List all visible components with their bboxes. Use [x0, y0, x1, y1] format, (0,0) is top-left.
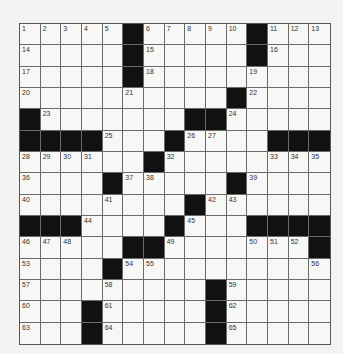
grid-cell[interactable] [227, 131, 248, 152]
grid-cell[interactable]: 36 [20, 173, 41, 194]
grid-cell[interactable]: 38 [144, 173, 165, 194]
grid-cell[interactable] [185, 323, 206, 344]
grid-cell[interactable] [289, 45, 310, 66]
grid-cell[interactable] [227, 259, 248, 280]
grid-cell[interactable] [103, 216, 124, 237]
grid-cell[interactable] [144, 323, 165, 344]
grid-cell[interactable]: 23 [41, 109, 62, 130]
grid-cell[interactable] [165, 195, 186, 216]
grid-cell[interactable] [268, 173, 289, 194]
grid-cell[interactable] [123, 280, 144, 301]
grid-cell[interactable]: 50 [247, 237, 268, 258]
grid-cell[interactable] [82, 67, 103, 88]
grid-cell[interactable]: 24 [227, 109, 248, 130]
grid-cell[interactable]: 53 [20, 259, 41, 280]
grid-cell[interactable]: 61 [103, 301, 124, 322]
grid-cell[interactable] [268, 323, 289, 344]
grid-cell[interactable] [227, 45, 248, 66]
grid-cell[interactable] [309, 195, 330, 216]
grid-cell[interactable]: 16 [268, 45, 289, 66]
grid-cell[interactable] [165, 173, 186, 194]
grid-cell[interactable] [82, 45, 103, 66]
grid-cell[interactable]: 47 [41, 237, 62, 258]
grid-cell[interactable]: 35 [309, 152, 330, 173]
grid-cell[interactable] [206, 67, 227, 88]
grid-cell[interactable] [82, 280, 103, 301]
grid-cell[interactable] [82, 88, 103, 109]
grid-cell[interactable] [206, 152, 227, 173]
grid-cell[interactable] [185, 301, 206, 322]
grid-cell[interactable] [247, 131, 268, 152]
grid-cell[interactable] [82, 109, 103, 130]
grid-cell[interactable] [289, 259, 310, 280]
grid-cell[interactable] [103, 152, 124, 173]
grid-cell[interactable]: 44 [82, 216, 103, 237]
grid-cell[interactable]: 7 [165, 24, 186, 45]
grid-cell[interactable] [61, 67, 82, 88]
grid-cell[interactable]: 41 [103, 195, 124, 216]
grid-cell[interactable] [206, 237, 227, 258]
grid-cell[interactable]: 57 [20, 280, 41, 301]
grid-cell[interactable] [61, 109, 82, 130]
grid-cell[interactable] [206, 173, 227, 194]
grid-cell[interactable] [123, 301, 144, 322]
grid-cell[interactable]: 28 [20, 152, 41, 173]
grid-cell[interactable]: 15 [144, 45, 165, 66]
grid-cell[interactable]: 55 [144, 259, 165, 280]
grid-cell[interactable]: 9 [206, 24, 227, 45]
grid-cell[interactable] [268, 88, 289, 109]
grid-cell[interactable] [309, 323, 330, 344]
grid-cell[interactable]: 52 [289, 237, 310, 258]
grid-cell[interactable] [289, 67, 310, 88]
grid-cell[interactable] [144, 109, 165, 130]
grid-cell[interactable] [123, 131, 144, 152]
grid-cell[interactable] [144, 280, 165, 301]
grid-cell[interactable] [185, 88, 206, 109]
grid-cell[interactable]: 26 [185, 131, 206, 152]
grid-cell[interactable] [289, 323, 310, 344]
grid-cell[interactable]: 11 [268, 24, 289, 45]
grid-cell[interactable]: 27 [206, 131, 227, 152]
grid-cell[interactable]: 25 [103, 131, 124, 152]
grid-cell[interactable] [289, 195, 310, 216]
grid-cell[interactable] [185, 173, 206, 194]
grid-cell[interactable] [123, 195, 144, 216]
grid-cell[interactable]: 17 [20, 67, 41, 88]
grid-cell[interactable]: 1 [20, 24, 41, 45]
grid-cell[interactable]: 22 [247, 88, 268, 109]
grid-cell[interactable]: 37 [123, 173, 144, 194]
grid-cell[interactable] [227, 216, 248, 237]
grid-cell[interactable] [227, 152, 248, 173]
grid-cell[interactable]: 40 [20, 195, 41, 216]
grid-cell[interactable] [165, 301, 186, 322]
grid-cell[interactable]: 5 [103, 24, 124, 45]
grid-cell[interactable] [123, 152, 144, 173]
grid-cell[interactable]: 31 [82, 152, 103, 173]
grid-cell[interactable]: 39 [247, 173, 268, 194]
grid-cell[interactable] [185, 152, 206, 173]
grid-cell[interactable] [309, 88, 330, 109]
grid-cell[interactable]: 60 [20, 301, 41, 322]
grid-cell[interactable] [123, 216, 144, 237]
grid-cell[interactable]: 43 [227, 195, 248, 216]
grid-cell[interactable]: 12 [289, 24, 310, 45]
grid-cell[interactable] [268, 280, 289, 301]
grid-cell[interactable] [103, 45, 124, 66]
grid-cell[interactable] [165, 45, 186, 66]
grid-cell[interactable]: 63 [20, 323, 41, 344]
grid-cell[interactable]: 62 [227, 301, 248, 322]
grid-cell[interactable]: 54 [123, 259, 144, 280]
grid-cell[interactable] [41, 195, 62, 216]
grid-cell[interactable] [268, 109, 289, 130]
grid-cell[interactable] [247, 195, 268, 216]
grid-cell[interactable] [206, 216, 227, 237]
grid-cell[interactable] [41, 259, 62, 280]
grid-cell[interactable]: 18 [144, 67, 165, 88]
grid-cell[interactable] [61, 280, 82, 301]
grid-cell[interactable] [247, 109, 268, 130]
grid-cell[interactable] [41, 67, 62, 88]
grid-cell[interactable] [41, 301, 62, 322]
grid-cell[interactable]: 64 [103, 323, 124, 344]
grid-cell[interactable] [61, 45, 82, 66]
grid-cell[interactable]: 21 [123, 88, 144, 109]
